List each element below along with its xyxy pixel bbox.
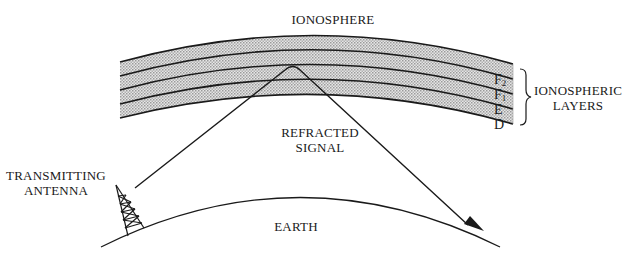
transmitting-antenna-label: TRANSMITTING ANTENNA bbox=[2, 168, 110, 198]
ionospheric-layers-label: IONOSPHERIC LAYERS bbox=[530, 83, 626, 113]
earth-label: EARTH bbox=[256, 219, 336, 234]
arrowhead-icon bbox=[464, 216, 484, 231]
antenna-tower-icon bbox=[116, 185, 144, 236]
layer-d-label: D bbox=[494, 118, 504, 132]
ionosphere-label: IONOSPHERE bbox=[283, 12, 383, 27]
layer-e-label: E bbox=[494, 103, 503, 117]
refracted-signal-label: REFRACTED SIGNAL bbox=[270, 125, 370, 155]
